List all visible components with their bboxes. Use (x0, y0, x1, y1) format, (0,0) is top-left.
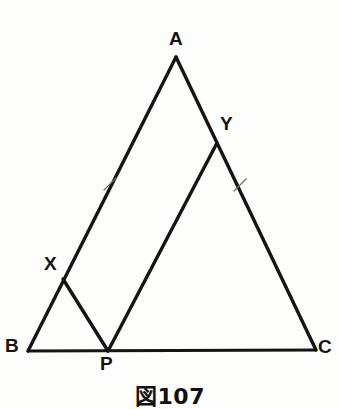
geometry-canvas (0, 0, 340, 409)
segment-bc (28, 350, 316, 351)
vertex-label-p: P (100, 354, 113, 373)
segment-py (108, 143, 217, 351)
vertex-label-a: A (169, 29, 183, 48)
vertex-label-x: X (44, 254, 57, 273)
segment-ac (176, 57, 316, 350)
vertex-label-b: B (5, 336, 19, 355)
segment-xp (63, 279, 108, 351)
figure-caption: 図107 (135, 385, 205, 408)
vertex-label-c: C (318, 337, 332, 356)
caption-row: 図107 (0, 385, 340, 408)
vertex-label-y: Y (220, 114, 233, 133)
geometry-figure: A B C P X Y 図107 (0, 0, 340, 409)
segment-ab (28, 57, 176, 351)
